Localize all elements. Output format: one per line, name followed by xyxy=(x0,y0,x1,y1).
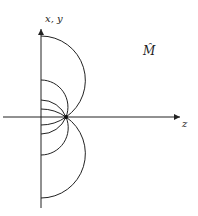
focal-point xyxy=(64,115,68,119)
arc-8 xyxy=(41,117,85,198)
diagram: x, y z M̂ xyxy=(0,0,198,216)
xy-axis-label: x, y xyxy=(45,13,63,24)
arc-1 xyxy=(41,36,85,117)
z-axis-label: z xyxy=(181,118,188,129)
region-label: M̂ xyxy=(142,43,156,58)
